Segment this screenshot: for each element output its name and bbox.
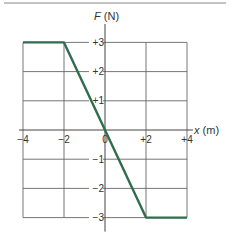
y-tick-label: −2 (93, 183, 105, 194)
y-tick-label: −1 (93, 154, 105, 165)
x-axis-label: x (m) (193, 124, 219, 136)
axes (19, 24, 193, 232)
y-tick-label: +2 (93, 66, 105, 77)
x-tick-label: +2 (140, 134, 152, 145)
x-tick-label: −4 (17, 134, 29, 145)
y-tick-label: +3 (93, 37, 105, 48)
y-tick-label: −3 (93, 212, 105, 223)
y-axis-label: F (N) (94, 10, 119, 22)
force-vs-position-chart: −4−20+2+4+3+2+1−1−2−3 F (N) x (m) (0, 0, 237, 236)
x-tick-label: +4 (181, 134, 193, 145)
x-tick-label: −2 (58, 134, 70, 145)
